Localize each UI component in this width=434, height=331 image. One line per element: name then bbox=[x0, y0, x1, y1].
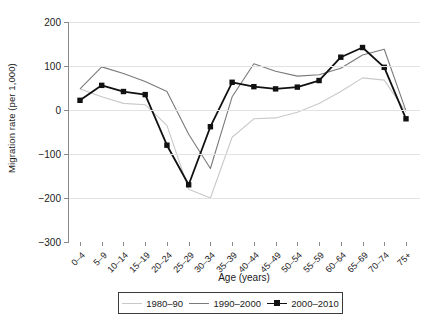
data-point-marker bbox=[273, 86, 278, 91]
y-axis-tick bbox=[64, 110, 69, 111]
x-axis-title: Age (years) bbox=[68, 272, 420, 283]
y-axis-tick bbox=[64, 198, 69, 199]
gridline bbox=[68, 242, 420, 243]
y-axis-tick-label: −200 bbox=[38, 193, 61, 204]
chart-legend: 1980–901990–20002000–2010 bbox=[118, 292, 343, 314]
gridline bbox=[68, 198, 420, 199]
y-axis-tick bbox=[64, 242, 69, 243]
x-axis-tick bbox=[254, 242, 255, 246]
legend-label: 2000–2010 bbox=[291, 298, 339, 309]
y-axis-tick-label: −100 bbox=[38, 149, 61, 160]
legend-label: 1980–90 bbox=[146, 298, 183, 309]
x-axis-tick bbox=[123, 242, 124, 246]
x-axis-tick bbox=[341, 242, 342, 246]
series-line-2 bbox=[80, 48, 406, 185]
data-point-marker bbox=[208, 124, 213, 129]
data-point-marker bbox=[360, 45, 365, 50]
y-axis-tick bbox=[64, 66, 69, 67]
series-lines bbox=[68, 22, 420, 242]
legend-label: 1990–2000 bbox=[213, 298, 261, 309]
gridline bbox=[68, 22, 420, 23]
data-point-marker bbox=[229, 80, 234, 85]
x-axis-tick bbox=[232, 242, 233, 246]
y-axis-tick-label: 100 bbox=[44, 61, 61, 72]
data-point-marker bbox=[338, 55, 343, 60]
legend-item-0[interactable]: 1980–90 bbox=[122, 298, 183, 309]
series-line-0 bbox=[80, 78, 406, 198]
data-point-marker bbox=[143, 92, 148, 97]
x-axis-tick bbox=[406, 242, 407, 246]
data-point-marker bbox=[164, 143, 169, 148]
data-point-marker bbox=[295, 84, 300, 89]
x-axis-tick bbox=[80, 242, 81, 246]
series-line-1 bbox=[80, 49, 406, 168]
data-point-marker bbox=[121, 89, 126, 94]
legend-item-2[interactable]: 2000–2010 bbox=[267, 298, 339, 309]
x-axis-tick bbox=[319, 242, 320, 246]
x-axis-tick bbox=[363, 242, 364, 246]
x-axis-tick bbox=[145, 242, 146, 246]
migration-rate-chart: Migration rate (per 1,000) 2001000−100−2… bbox=[0, 0, 434, 331]
y-axis-tick-label: 0 bbox=[55, 105, 61, 116]
x-axis-tick bbox=[276, 242, 277, 246]
data-point-marker bbox=[99, 83, 104, 88]
x-axis-tick bbox=[384, 242, 385, 246]
data-point-marker bbox=[316, 78, 321, 83]
x-axis-tick bbox=[297, 242, 298, 246]
x-axis-tick bbox=[210, 242, 211, 246]
data-point-marker bbox=[403, 116, 408, 121]
x-axis-tick bbox=[102, 242, 103, 246]
gridline bbox=[68, 110, 420, 111]
legend-swatch-icon bbox=[189, 299, 209, 308]
y-axis-tick-label: −300 bbox=[38, 237, 61, 248]
legend-swatch-icon bbox=[267, 299, 287, 308]
gridline bbox=[68, 66, 420, 67]
y-axis-title: Migration rate (per 1,000) bbox=[6, 0, 17, 38]
data-point-marker bbox=[186, 182, 191, 187]
y-axis-tick-label: 200 bbox=[44, 17, 61, 28]
y-axis-tick bbox=[64, 154, 69, 155]
gridline bbox=[68, 154, 420, 155]
plot-area: 2001000−100−200−3000–45–910–1415–1920–24… bbox=[68, 22, 420, 242]
data-point-marker bbox=[251, 84, 256, 89]
legend-swatch-icon bbox=[122, 299, 142, 308]
x-axis-tick bbox=[167, 242, 168, 246]
legend-item-1[interactable]: 1990–2000 bbox=[189, 298, 261, 309]
y-axis-tick bbox=[64, 22, 69, 23]
data-point-marker bbox=[77, 98, 82, 103]
x-axis-tick bbox=[189, 242, 190, 246]
